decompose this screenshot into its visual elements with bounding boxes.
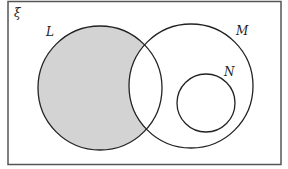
venn-diagram: ξ L M N xyxy=(0,0,288,169)
set-m-label: M xyxy=(235,24,249,38)
set-n-label: N xyxy=(223,65,235,79)
set-l-label: L xyxy=(45,25,54,39)
